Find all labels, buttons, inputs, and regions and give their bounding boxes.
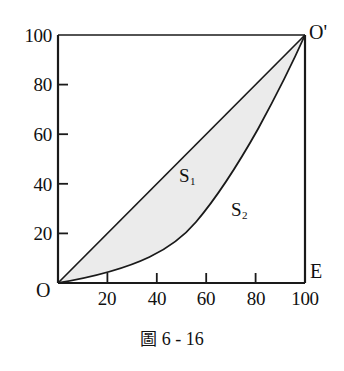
region-label-s2-text: S [231,199,242,220]
x-axis-label-40: 40 [132,289,182,308]
x-axis-label-60: 60 [181,289,231,308]
figure-container: 100 80 60 40 20 20 40 60 80 100 O O' E S… [0,0,344,371]
figure-caption: 圖 6 - 16 [0,330,344,348]
origin-label-o: O [36,280,50,300]
y-axis-label-60: 60 [2,125,52,144]
region-label-s2-subscript: 2 [242,209,248,221]
top-right-label-o-prime: O' [309,22,327,42]
equality-diagonal-line [58,35,305,283]
region-label-s1-subscript: 1 [190,175,196,187]
region-label-s1-text: S [179,165,190,186]
caption-cjk-char: 圖 [140,329,157,349]
x-axis-label-100: 100 [279,289,331,308]
x-axis-label-80: 80 [231,289,281,308]
y-axis-label-100: 100 [2,26,52,45]
x-axis-label-20: 20 [82,289,132,308]
region-label-s2: S2 [231,200,247,219]
region-label-s1: S1 [179,166,195,185]
y-axis-label-80: 80 [2,75,52,94]
y-axis-label-40: 40 [2,175,52,194]
y-axis-label-20: 20 [2,224,52,243]
caption-number: 6 - 16 [162,329,204,349]
right-axis-label-e: E [310,261,322,281]
